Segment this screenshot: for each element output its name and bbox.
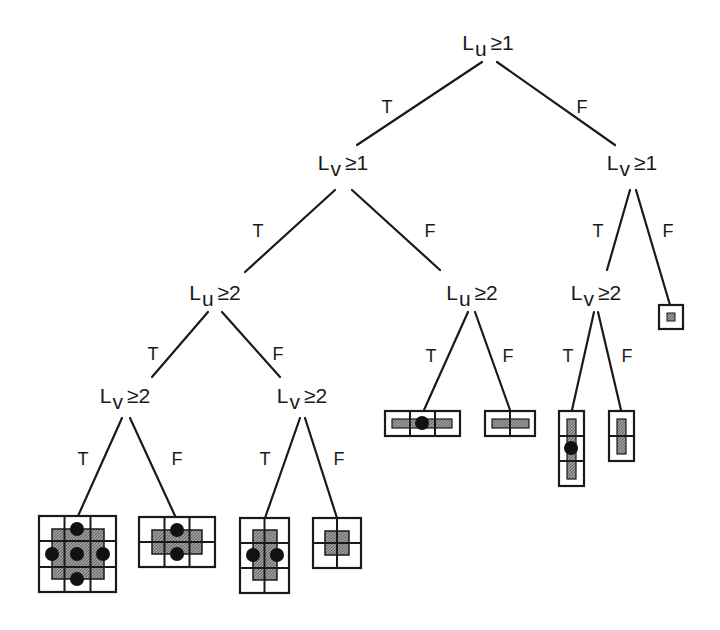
branch-true: T bbox=[593, 222, 604, 240]
branch-true: T bbox=[382, 98, 393, 116]
node-lu-ge-2-left: Lu≥2 bbox=[189, 282, 241, 303]
leaf-6-horizontal-bar bbox=[485, 411, 535, 436]
branch-false: F bbox=[622, 347, 633, 365]
node-sub: v bbox=[619, 157, 630, 180]
node-op: ≥ bbox=[475, 281, 487, 304]
node-val: 1 bbox=[502, 31, 514, 54]
node-lv-ge-2-far-left: Lv≥2 bbox=[100, 385, 150, 406]
branch-false: F bbox=[577, 98, 588, 116]
node-sub: u bbox=[475, 37, 487, 60]
node-sub: v bbox=[112, 390, 123, 413]
node-sub: u bbox=[459, 287, 471, 310]
node-lv-ge-1-left: Lv≥1 bbox=[318, 152, 368, 173]
node-val: 2 bbox=[486, 281, 498, 304]
node-val: 2 bbox=[139, 384, 151, 407]
node-var: L bbox=[189, 281, 201, 304]
node-lu-ge-2-right: Lu≥2 bbox=[446, 282, 498, 303]
branch-false: F bbox=[663, 222, 674, 240]
branch-false: F bbox=[334, 450, 345, 468]
decision-tree-canvas bbox=[0, 0, 720, 630]
node-sub: v bbox=[330, 157, 341, 180]
leaf-5-horizontal-bar-dot bbox=[385, 411, 460, 436]
branch-true: T bbox=[78, 450, 89, 468]
node-op: ≥ bbox=[127, 384, 139, 407]
node-op: ≥ bbox=[598, 281, 610, 304]
node-var: L bbox=[607, 151, 619, 174]
branch-false: F bbox=[503, 347, 514, 365]
node-root-lu-ge-1: Lu≥1 bbox=[462, 32, 514, 53]
branch-true: T bbox=[563, 347, 574, 365]
node-var: L bbox=[462, 31, 474, 54]
branch-true: T bbox=[148, 345, 159, 363]
node-var: L bbox=[571, 281, 583, 304]
node-var: L bbox=[277, 384, 289, 407]
node-val: 1 bbox=[357, 151, 369, 174]
node-op: ≥ bbox=[634, 151, 646, 174]
branch-true: T bbox=[260, 450, 271, 468]
branch-false: F bbox=[425, 222, 436, 240]
node-lv-ge-2-mid-left: Lv≥2 bbox=[277, 385, 327, 406]
node-var: L bbox=[100, 384, 112, 407]
node-val: 1 bbox=[646, 151, 658, 174]
node-op: ≥ bbox=[491, 31, 503, 54]
leaf-3-vertical-pair bbox=[240, 518, 289, 593]
node-op: ≥ bbox=[218, 281, 230, 304]
node-sub: v bbox=[583, 287, 594, 310]
leaf-4-small-square bbox=[313, 518, 361, 568]
node-sub: v bbox=[289, 390, 300, 413]
leaf-8-vertical-bar bbox=[609, 411, 634, 461]
node-sub: u bbox=[202, 287, 214, 310]
leaf-7-vertical-bar-dot bbox=[559, 411, 584, 486]
branch-true: T bbox=[426, 347, 437, 365]
leaf-1-plus-pattern bbox=[39, 516, 116, 592]
node-op: ≥ bbox=[345, 151, 357, 174]
node-val: 2 bbox=[229, 281, 241, 304]
node-val: 2 bbox=[610, 281, 622, 304]
node-var: L bbox=[318, 151, 330, 174]
branch-true: T bbox=[253, 222, 264, 240]
leaf-2-horizontal-pair bbox=[139, 517, 215, 567]
node-val: 2 bbox=[316, 384, 328, 407]
branch-false: F bbox=[172, 450, 183, 468]
leaf-9-single-cell bbox=[659, 305, 683, 329]
branch-false: F bbox=[273, 345, 284, 363]
node-lv-ge-1-right: Lv≥1 bbox=[607, 152, 657, 173]
node-op: ≥ bbox=[304, 384, 316, 407]
node-var: L bbox=[446, 281, 458, 304]
node-lv-ge-2-right: Lv≥2 bbox=[571, 282, 621, 303]
